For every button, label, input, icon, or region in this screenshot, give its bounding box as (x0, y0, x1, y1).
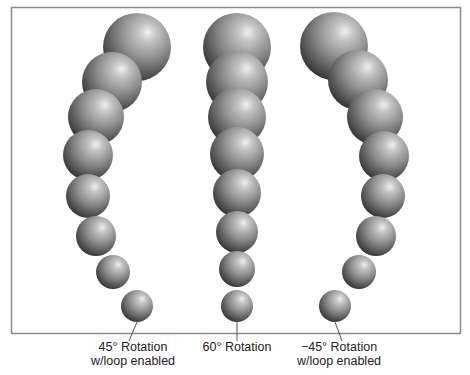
sphere (63, 130, 113, 180)
sphere (319, 290, 351, 322)
caption-left-line1: 45° Rotation (91, 340, 175, 354)
sphere (66, 174, 110, 218)
sphere (216, 211, 258, 253)
sphere (361, 174, 405, 218)
sphere (96, 255, 130, 289)
caption-right-line1: −45° Rotation (297, 340, 381, 354)
caption-right-line2: w/loop enabled (297, 354, 381, 368)
caption-left: 45° Rotation w/loop enabled (91, 340, 175, 368)
rotation-diagram (0, 0, 470, 375)
sphere (219, 251, 255, 287)
sphere (221, 290, 253, 322)
sphere (76, 216, 116, 256)
caption-left-line2: w/loop enabled (91, 354, 175, 368)
caption-right: −45° Rotation w/loop enabled (297, 340, 381, 368)
sphere (359, 131, 409, 181)
sphere (356, 216, 396, 256)
sphere (342, 255, 376, 289)
sphere (213, 169, 261, 217)
caption-middle-line1: 60° Rotation (203, 340, 272, 354)
sphere (121, 290, 153, 322)
caption-middle: 60° Rotation (203, 340, 272, 354)
